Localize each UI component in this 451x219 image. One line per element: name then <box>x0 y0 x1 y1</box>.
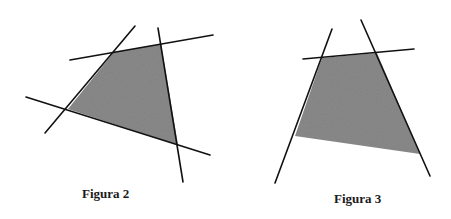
figure-3-shaded-region <box>295 53 420 154</box>
figure-3-caption: Figura 3 <box>334 191 381 207</box>
figure-3 <box>275 20 430 183</box>
diagram-canvas <box>0 0 451 219</box>
figure-2-caption: Figura 2 <box>82 186 129 202</box>
figure-2-shaded-region <box>68 44 178 145</box>
figure-2 <box>26 26 213 182</box>
